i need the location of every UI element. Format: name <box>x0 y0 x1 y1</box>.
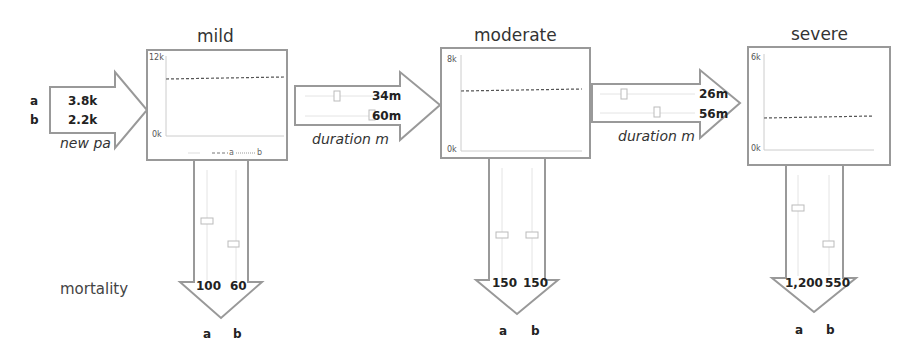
slider-handle <box>201 218 213 224</box>
mortality-mild-b[interactable]: 60 <box>230 279 247 293</box>
slider-handle <box>654 107 660 117</box>
y-max-mild: 12k <box>149 53 164 62</box>
y-max-moderate: 8k <box>447 55 457 64</box>
stage-title-mild: mild <box>197 26 234 46</box>
legend-b: b <box>257 148 262 157</box>
mortality-label: mortality <box>60 280 128 298</box>
mortality-severe-series-a: a <box>795 323 803 337</box>
slider-handle <box>526 232 538 238</box>
stage-title-severe: severe <box>791 24 848 44</box>
mortality-severe-b[interactable]: 550 <box>825 276 850 290</box>
mortality-severe-series-b: b <box>826 323 835 337</box>
mortality-mild-a[interactable]: 100 <box>196 279 221 293</box>
stage-box-mild <box>147 50 287 160</box>
mortality-moderate-series-a: a <box>499 324 507 338</box>
mortality-arrow-mild <box>180 160 262 318</box>
transition-arrow-1 <box>295 72 440 140</box>
y-min-severe: 0k <box>751 144 761 153</box>
slider-handle <box>496 232 508 238</box>
slider-handle <box>621 89 627 99</box>
slider-handle <box>334 91 340 101</box>
mortality-mild-series-a: a <box>203 327 211 341</box>
slider-handle <box>823 241 834 247</box>
y-min-moderate: 0k <box>447 145 457 154</box>
inflow-value-b[interactable]: 2.2k <box>68 113 97 127</box>
mortality-moderate-a[interactable]: 150 <box>492 276 517 290</box>
stage-box-severe <box>748 47 890 165</box>
mortality-mild-series-b: b <box>233 327 242 341</box>
transition-2-value-b[interactable]: 56m <box>699 107 728 121</box>
legend-a: a <box>229 148 234 157</box>
transition-1-value-a[interactable]: 34m <box>372 89 401 103</box>
diagram-canvas <box>0 0 920 356</box>
mortality-severe-a[interactable]: 1,200 <box>785 276 823 290</box>
transition-2-label: duration m <box>618 128 695 144</box>
mortality-moderate-series-b: b <box>531 324 540 338</box>
transition-1-label: duration m <box>312 131 389 147</box>
transition-1-value-b[interactable]: 60m <box>372 109 401 123</box>
transition-2-value-a[interactable]: 26m <box>699 87 728 101</box>
mortality-moderate-b[interactable]: 150 <box>523 276 548 290</box>
slider-handle <box>228 241 239 247</box>
inflow-value-a[interactable]: 3.8k <box>68 94 97 108</box>
inflow-series-a-label: a <box>30 94 38 108</box>
y-min-mild: 0k <box>152 130 162 139</box>
inflow-series-b-label: b <box>30 113 39 127</box>
slider-handle <box>792 205 804 211</box>
stage-box-moderate <box>441 48 590 158</box>
y-max-severe: 6k <box>751 53 761 62</box>
mortality-arrow-moderate <box>476 158 558 314</box>
stage-title-moderate: moderate <box>474 25 557 45</box>
inflow-label: new pa <box>60 135 111 151</box>
